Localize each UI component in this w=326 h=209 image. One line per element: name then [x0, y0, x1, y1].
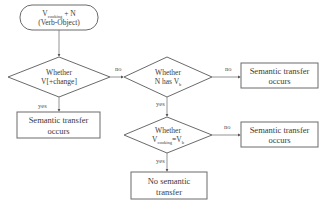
outcome1-line1: Semantic transfer [29, 115, 89, 125]
outcome4-line2: transfer [156, 187, 182, 197]
decision3-line1: Whether [155, 126, 181, 135]
decision3-yes-label: yes [156, 157, 165, 164]
outcome2-node: Semantic transfer occurs [241, 63, 318, 88]
decision2-no-label: no [225, 65, 232, 72]
outcome3-line1: Semantic transfer [250, 125, 310, 135]
flowchart: yes no no yes no yes Vcooking + N (Verb-… [0, 0, 326, 209]
outcome2-line1: Semantic transfer [250, 66, 310, 76]
decision1-line2: V[+change] [41, 77, 77, 86]
outcome1-line2: occurs [47, 126, 69, 136]
start-node: Vcooking + N (Verb-Object) [20, 5, 98, 30]
decision2-yes-label: yes [156, 100, 165, 107]
start-line2: (Verb-Object) [38, 18, 80, 27]
connectors [59, 30, 240, 171]
outcome4-line1: No semantic [148, 176, 191, 186]
decision3-node: Whether Vcooking=Vb [124, 117, 212, 153]
outcome1-node: Semantic transfer occurs [17, 112, 100, 138]
outcome3-node: Semantic transfer occurs [241, 122, 318, 147]
decision2-line1: Whether [155, 68, 181, 77]
outcome3-line2: occurs [268, 135, 290, 145]
decision3-diamond [124, 117, 212, 153]
decision1-no-label: no [115, 65, 122, 72]
decision2-node: Whether N has Vb [124, 57, 212, 97]
decision2-line2: N has Vb [155, 77, 182, 87]
decision1-line1: Whether [46, 68, 72, 77]
outcome2-line2: occurs [268, 76, 290, 86]
decision3-no-label: no [224, 123, 231, 130]
outcome4-node: No semantic transfer [131, 172, 207, 199]
decision1-yes-label: yes [38, 102, 47, 109]
decision1-node: Whether V[+change] [8, 57, 110, 97]
